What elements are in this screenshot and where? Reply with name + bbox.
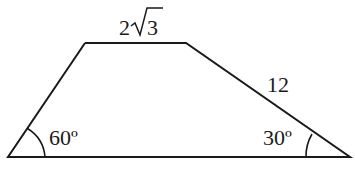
top-side-radicand: 3 (147, 15, 158, 40)
left-angle-arc (28, 129, 46, 158)
right-angle-label: 30º (263, 125, 292, 150)
top-side-coefficient: 2 (119, 15, 130, 40)
left-angle-label: 60º (49, 125, 78, 150)
right-angle-arc (306, 134, 312, 157)
right-side-label: 12 (267, 72, 289, 97)
top-side-label: 2 3 (119, 8, 163, 40)
trapezoid-diagram: 2 3 12 60º 30º (0, 0, 355, 187)
